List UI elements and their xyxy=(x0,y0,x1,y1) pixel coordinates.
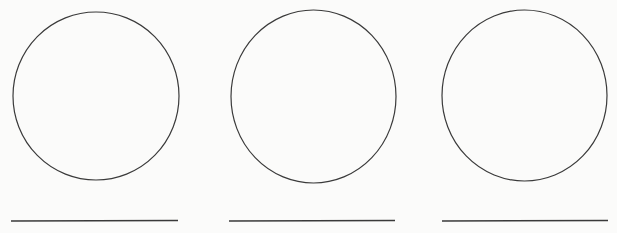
drawing-canvas xyxy=(0,0,617,233)
underline-shape-1 xyxy=(11,221,178,222)
underline-shape-2 xyxy=(229,221,395,222)
underline-shape-3 xyxy=(442,221,608,222)
shapes-figure xyxy=(0,0,617,233)
paper-background xyxy=(0,0,617,233)
